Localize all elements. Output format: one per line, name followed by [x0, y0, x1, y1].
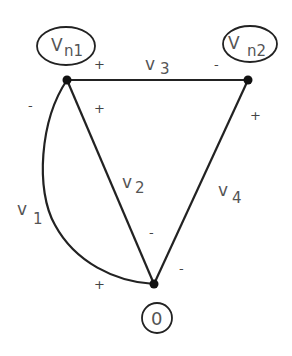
branch-v2-label-sub: 2: [135, 179, 145, 197]
branch-v4-label-sub: 4: [232, 189, 242, 207]
node-ground-dot: [150, 280, 159, 289]
branch-v4-plus: +: [250, 108, 261, 123]
node-n2-dot: [244, 76, 253, 85]
node-n2-label-sub: n2: [247, 42, 266, 60]
branch-v2-minus: -: [149, 225, 154, 240]
branch-v2-plus: +: [94, 101, 105, 116]
branch-v4-label-main: v: [218, 180, 228, 200]
branch-v1-plus: +: [94, 277, 105, 292]
node-ground-label: 0: [151, 308, 162, 329]
circuit-graph: V n1 V n2 0 v 3 + - v 2 + - v 1 + - v 4 …: [0, 0, 292, 356]
branch-v2-label-main: v: [122, 172, 132, 192]
branch-v3-plus: +: [94, 57, 105, 72]
branch-v3-minus: -: [214, 57, 219, 72]
branch-v3-label-sub: 3: [160, 60, 170, 78]
branch-v4-minus: -: [179, 261, 184, 276]
node-n1-label-main: V: [51, 35, 63, 55]
node-n1-label-sub: n1: [64, 42, 83, 60]
branch-v3-label-main: v: [145, 54, 155, 74]
branch-v1-minus: -: [28, 98, 33, 113]
branch-v4-line: [154, 80, 248, 284]
node-n1-dot: [63, 76, 72, 85]
node-n2-label-main: V: [228, 33, 240, 53]
branch-v1-label-main: v: [17, 199, 27, 219]
branch-v1-label-sub: 1: [33, 210, 43, 228]
